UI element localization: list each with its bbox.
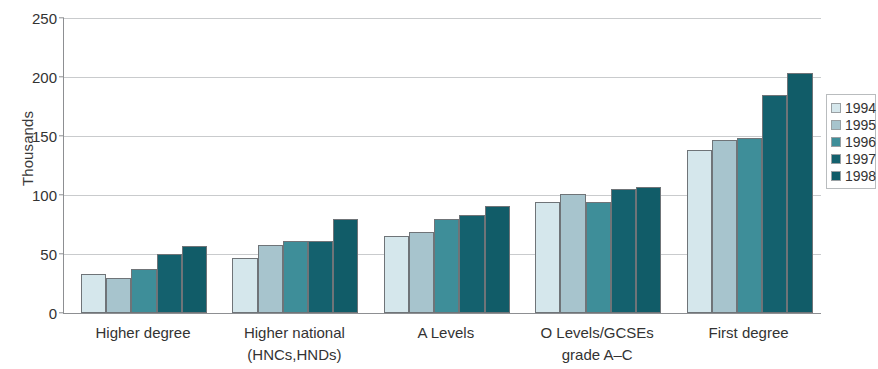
legend-item-1996[interactable]: 1996 (831, 133, 872, 150)
grouped-bar-chart: Thousands 050100150200250 Higher degreeH… (0, 0, 878, 369)
bar (81, 274, 106, 313)
x-axis-label-line1: Higher national (244, 324, 345, 341)
bar (712, 140, 737, 313)
bar-group (384, 18, 510, 313)
bar-group (232, 18, 358, 313)
bar (283, 241, 308, 313)
y-tick-label-50: 50 (40, 246, 57, 263)
bar (737, 138, 762, 313)
legend-item-1997[interactable]: 1997 (831, 150, 872, 167)
bar (409, 232, 434, 313)
bar (787, 73, 812, 313)
bar (485, 206, 510, 313)
plot-area: 050100150200250 (63, 18, 821, 314)
y-tick-label-100: 100 (32, 187, 57, 204)
x-axis-label-line1: Higher degree (95, 324, 190, 341)
bar (636, 187, 661, 313)
bar-group (81, 18, 207, 313)
legend-label: 1998 (845, 169, 876, 183)
bar (157, 254, 182, 313)
bar (258, 245, 283, 313)
bar (687, 150, 712, 313)
x-axis-label: First degree (639, 322, 859, 344)
bar-group (687, 18, 813, 313)
y-tick-label-250: 250 (32, 10, 57, 27)
bar (384, 236, 409, 313)
legend-label: 1996 (845, 135, 876, 149)
x-axis-label-line2: (HNCs,HNDs) (184, 344, 404, 366)
bar (308, 241, 333, 313)
x-axis-label-line1: O Levels/GCSEs (541, 324, 654, 341)
legend: 19941995199619971998 (826, 94, 876, 189)
bar (232, 258, 257, 313)
bar (586, 202, 611, 313)
legend-label: 1994 (845, 101, 876, 115)
legend-item-1995[interactable]: 1995 (831, 116, 872, 133)
legend-label: 1995 (845, 118, 876, 132)
bar (434, 219, 459, 313)
x-axis-label-line2: grade A–C (487, 344, 707, 366)
bar (535, 202, 560, 313)
bar (106, 278, 131, 313)
bar (560, 194, 585, 313)
x-axis-label-line1: First degree (709, 324, 789, 341)
legend-swatch-icon (831, 154, 841, 164)
bar (611, 189, 636, 313)
bar (762, 95, 787, 313)
bar (131, 269, 156, 313)
y-tick-label-0: 0 (49, 305, 57, 322)
x-axis-label-line1: A Levels (417, 324, 474, 341)
legend-item-1998[interactable]: 1998 (831, 167, 872, 184)
legend-swatch-icon (831, 171, 841, 181)
bar (459, 215, 484, 313)
legend-item-1994[interactable]: 1994 (831, 99, 872, 116)
bar (333, 219, 358, 313)
legend-swatch-icon (831, 137, 841, 147)
legend-swatch-icon (831, 120, 841, 130)
y-tick-label-200: 200 (32, 69, 57, 86)
legend-swatch-icon (831, 103, 841, 113)
legend-label: 1997 (845, 152, 876, 166)
y-tick-label-150: 150 (32, 128, 57, 145)
bars-layer (64, 18, 821, 313)
bar-group (535, 18, 661, 313)
bar (182, 246, 207, 313)
